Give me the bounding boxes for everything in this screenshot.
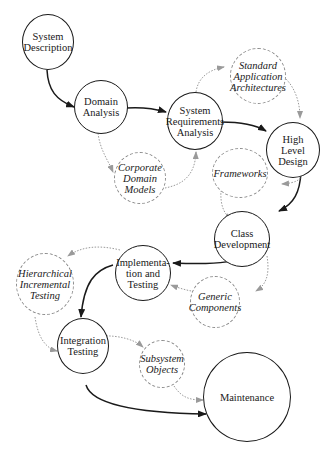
node-integration-testing: Integration Testing <box>57 318 109 374</box>
node-corporate-domain-models: Corporate Domain Models <box>114 152 166 204</box>
node-label: High Level Design <box>278 134 308 167</box>
edge-subsys-to-maint <box>174 386 203 400</box>
edge-domain-to-corporate <box>98 133 113 172</box>
node-label: Integration Testing <box>60 335 106 357</box>
node-label: Hierarchical Incremental Testing <box>18 268 72 301</box>
edge-corporate-to-sysreq <box>165 152 196 188</box>
node-label: Maintenance <box>220 392 274 403</box>
edge-impl-to-hier <box>68 247 120 256</box>
edge-sysreq-to-hld <box>221 122 266 131</box>
node-hierarchical-incremental-testing: Hierarchical Incremental Testing <box>16 253 74 315</box>
node-label: Implementa- tion and Testing <box>116 257 170 290</box>
node-label: System Requirements Analysis <box>166 105 224 138</box>
node-label: System Description <box>24 31 73 53</box>
node-frameworks: Frameworks <box>212 148 268 198</box>
node-subsystem-objects: Subsystem Objects <box>139 340 185 388</box>
node-generic-components: Generic Components <box>190 276 240 328</box>
edge-sysdesc-to-domain <box>47 70 74 107</box>
node-system-description: System Description <box>22 14 74 70</box>
node-standard-application-architectures: Standard Application Architectures <box>230 48 286 104</box>
edge-integ-to-maint <box>86 385 206 414</box>
edge-hier-to-integ <box>35 317 57 351</box>
node-domain-analysis: Domain Analysis <box>74 80 128 134</box>
node-system-requirements-analysis: System Requirements Analysis <box>167 92 223 150</box>
node-maintenance: Maintenance <box>203 352 291 442</box>
node-label: Subsystem Objects <box>140 353 184 375</box>
edge-standard-to-hld <box>284 77 300 118</box>
edge-sysreq-to-standard <box>196 67 224 92</box>
node-label: Class Development <box>214 228 271 250</box>
node-label: Standard Application Architectures <box>230 60 286 93</box>
node-label: Domain Analysis <box>83 96 120 118</box>
node-label: Generic Components <box>189 291 242 313</box>
node-implementation-and-testing: Implementa- tion and Testing <box>115 245 171 301</box>
node-label: Corporate Domain Models <box>118 162 162 195</box>
node-class-development: Class Development <box>214 211 270 267</box>
edge-impl-to-integ <box>81 265 113 317</box>
edge-domain-to-sysreq <box>126 108 166 112</box>
node-label: Frameworks <box>213 168 266 179</box>
node-high-level-design: High Level Design <box>266 122 320 178</box>
process-diagram: System Description Domain Analysis Syste… <box>0 0 332 456</box>
